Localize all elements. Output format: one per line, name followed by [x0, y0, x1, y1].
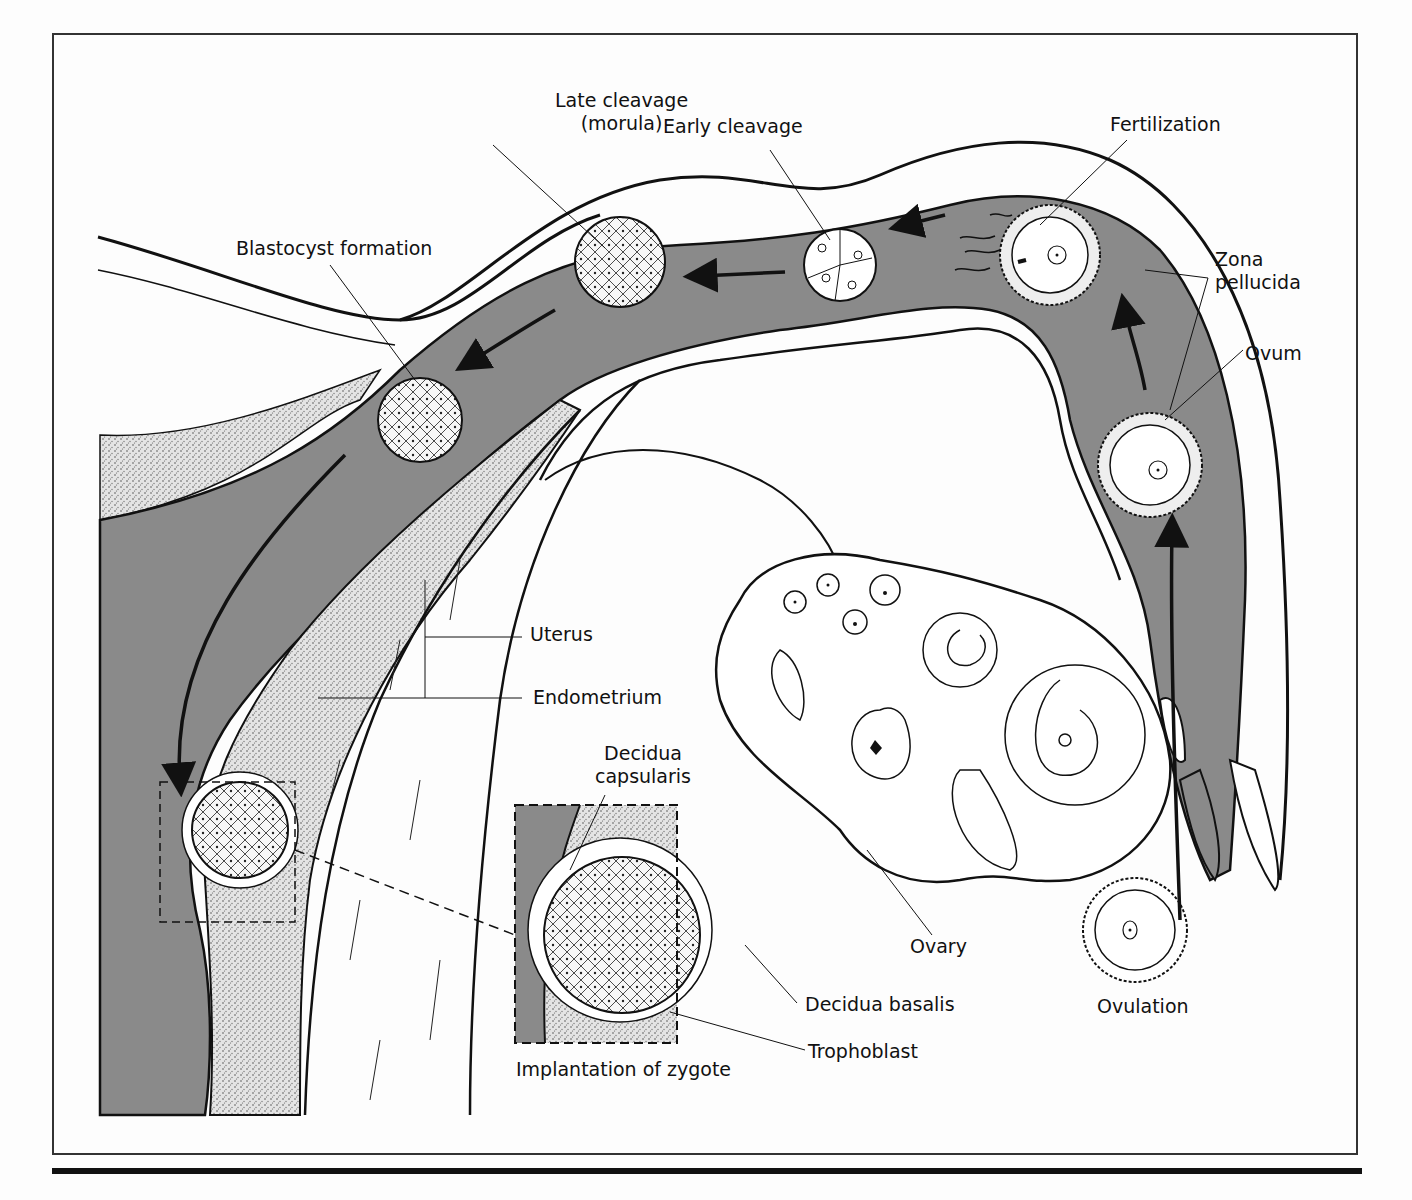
anatomy-illustration [0, 0, 1412, 1200]
label-decidua-capsularis-line1: Decidua [595, 742, 691, 765]
label-early-cleavage: Early cleavage [663, 115, 803, 138]
label-zona-pellucida: Zona pellucida [1215, 248, 1301, 294]
morula-cell [575, 217, 665, 307]
label-zona-line2: pellucida [1215, 271, 1301, 294]
label-implantation: Implantation of zygote [516, 1058, 731, 1081]
label-endometrium: Endometrium [533, 686, 662, 709]
label-ovum: Ovum [1245, 342, 1302, 365]
label-trophoblast: Trophoblast [808, 1040, 918, 1063]
implantation-inset [295, 805, 712, 1043]
ovary [716, 554, 1170, 882]
label-fertilization: Fertilization [1110, 113, 1221, 136]
label-decidua-basalis: Decidua basalis [805, 993, 955, 1016]
ovulation-cell [1083, 878, 1187, 982]
early-cleavage-cell [804, 229, 876, 301]
label-uterus: Uterus [530, 623, 593, 646]
label-blastocyst-formation: Blastocyst formation [236, 237, 432, 260]
label-zona-line1: Zona [1215, 248, 1301, 271]
label-decidua-capsularis: Decidua capsularis [595, 742, 691, 788]
blastocyst-cell [378, 378, 462, 462]
ovum-cell [1098, 413, 1202, 517]
label-ovary: Ovary [910, 935, 967, 958]
label-ovulation: Ovulation [1097, 995, 1189, 1018]
label-decidua-capsularis-line2: capsularis [595, 765, 691, 788]
label-late-cleavage-line1: Late cleavage [555, 89, 688, 112]
